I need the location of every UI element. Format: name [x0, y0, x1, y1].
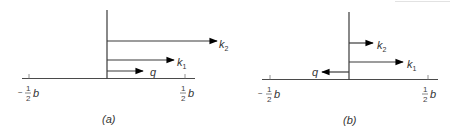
- svg-text:1: 1: [423, 85, 428, 94]
- panel-a-left-endpoint-label: − 1 2 b: [18, 84, 39, 103]
- panel-a-k2-label: k2: [219, 38, 229, 52]
- svg-text:b: b: [188, 87, 194, 99]
- svg-text:−: −: [18, 88, 23, 97]
- svg-text:2: 2: [423, 95, 428, 104]
- panel-b-k1-label: k1: [407, 58, 417, 72]
- panel-a-caption: (a): [102, 113, 116, 125]
- panel-b-caption: (b): [343, 114, 357, 126]
- vector-diagram: k2 k1 q − 1 2 b 1 2 b (a) k2: [0, 0, 450, 135]
- panel-b-q-label: q: [312, 66, 319, 78]
- panel-a: k2 k1 q − 1 2 b 1 2 b (a): [18, 10, 229, 125]
- panel-b-right-endpoint-label: 1 2 b: [422, 85, 436, 104]
- svg-text:1: 1: [181, 84, 186, 93]
- panel-b-left-endpoint-label: − 1 2 b: [258, 85, 280, 104]
- svg-text:b: b: [430, 88, 436, 100]
- svg-text:1: 1: [26, 84, 31, 93]
- svg-text:1: 1: [267, 85, 272, 94]
- svg-text:2: 2: [267, 95, 272, 104]
- panel-b: k2 k1 q − 1 2 b 1 2 b (b): [258, 12, 438, 126]
- panel-b-k2-label: k2: [377, 39, 387, 53]
- svg-text:−: −: [258, 89, 263, 98]
- svg-text:2: 2: [26, 94, 31, 103]
- svg-text:2: 2: [181, 94, 186, 103]
- panel-a-q-label: q: [150, 66, 157, 78]
- panel-a-k1-label: k1: [177, 56, 187, 70]
- svg-text:b: b: [274, 88, 280, 100]
- svg-text:b: b: [33, 87, 39, 99]
- panel-a-right-endpoint-label: 1 2 b: [180, 84, 194, 103]
